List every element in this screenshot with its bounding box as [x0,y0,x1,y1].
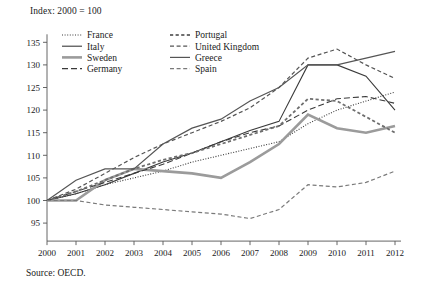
x-tick-label: 2009 [299,248,318,258]
x-tick-label: 2007 [241,248,260,258]
x-tick-label: 2012 [386,248,404,258]
x-axis: 2000200120022003200420052006200720082009… [38,241,404,258]
y-tick-label: 110 [27,151,41,161]
series-line-sweden [47,115,395,201]
y-tick-label: 135 [27,38,41,48]
x-tick-label: 2005 [183,248,202,258]
y-tick-label: 95 [31,218,41,228]
legend-label: Sweden [87,53,117,63]
x-tick-label: 2008 [270,248,289,258]
x-tick-label: 2001 [67,248,85,258]
legend-label: Greece [195,53,222,63]
chart-figure: Index: 2000 = 100 9510010511011512012513… [0,0,443,296]
chart-legend: FranceItalySwedenGermanyPortugalUnited K… [62,30,260,74]
x-tick-label: 2003 [125,248,144,258]
y-axis: 95100105110115120125130135 [27,34,48,241]
legend-label: Italy [87,42,105,52]
x-tick-label: 2011 [357,248,375,258]
legend-label: Germany [87,64,123,74]
legend-label: France [87,30,113,40]
legend-item-portugal: Portugal [170,30,228,40]
y-tick-label: 125 [27,83,41,93]
x-tick-label: 2006 [212,248,231,258]
x-tick-label: 2010 [328,248,347,258]
legend-item-united-kingdom: United Kingdom [170,42,260,52]
y-tick-label: 100 [27,196,41,206]
legend-label: United Kingdom [195,42,260,52]
y-tick-label: 120 [27,105,41,115]
legend-item-france: France [62,30,113,40]
series-line-italy [47,65,395,201]
legend-item-germany: Germany [62,64,123,74]
legend-label: Portugal [195,30,228,40]
x-tick-label: 2004 [154,248,173,258]
legend-item-italy: Italy [62,42,105,52]
y-tick-label: 115 [27,128,41,138]
line-chart-plot: 95100105110115120125130135 2000200120022… [0,0,443,296]
series-layer [47,49,395,219]
legend-item-sweden: Sweden [62,53,117,63]
legend-item-greece: Greece [170,53,222,63]
source-note: Source: OECD. [26,268,86,278]
x-tick-label: 2002 [96,248,114,258]
legend-label: Spain [195,64,217,74]
y-tick-label: 105 [27,173,41,183]
x-tick-label: 2000 [38,248,57,258]
y-tick-label: 130 [27,60,41,70]
legend-item-spain: Spain [170,64,217,74]
